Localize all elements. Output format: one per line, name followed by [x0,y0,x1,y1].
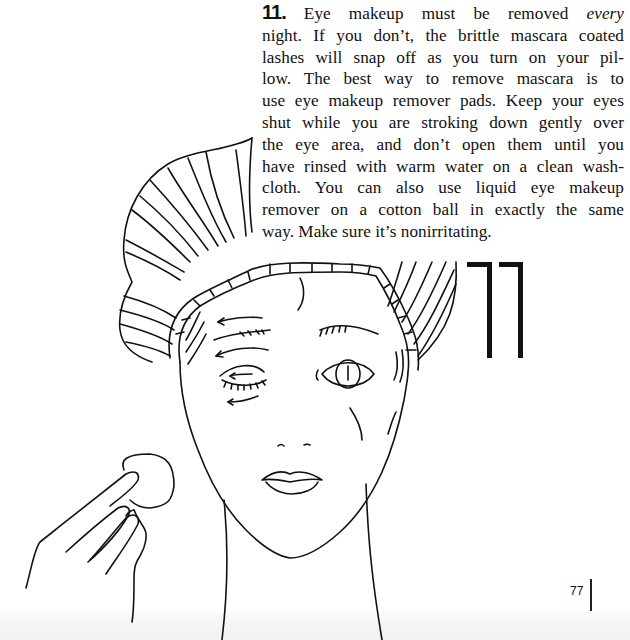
tip-line: shut while you are stroking down gently … [262,112,624,134]
closed-eye [214,317,270,405]
open-eye [317,326,379,388]
book-page: 11. Eye makeup must be removed every nig… [0,0,630,640]
hand-with-cotton-pad [26,454,174,622]
tip-line: the eye area, and don’t open them until … [262,134,624,156]
cotton-pad [123,454,174,508]
tip-line: night. If you don’t, the brittle mascara… [262,25,624,47]
seven-1-stem [487,262,492,358]
tip-line: lashes will snap off as you turn on your… [262,47,624,69]
tip-line: way. Make sure it’s nonirritating. [262,221,624,243]
tip-paragraph: 11. Eye makeup must be removed every nig… [262,2,624,243]
emphasis-word: every [587,4,624,23]
neck [222,408,382,640]
hair-curl [298,278,304,310]
tip-line: use eye makeup remover pads. Keep your e… [262,90,624,112]
tip-line: remover on a cotton ball in exactly the … [262,199,624,221]
right-eyebrow [320,326,378,334]
tip-line: cloth. You can also use liquid eye makeu… [262,177,624,199]
tip-line-1: 11. Eye makeup must be removed every [262,2,624,25]
tip-number: 11. [262,1,286,23]
cap-band [169,263,418,372]
tip-line: have rinsed with warm water on a clean w… [262,156,624,178]
seven-2-stem [518,262,523,358]
face [180,278,408,558]
tip-line: low. The best way to remove mascara is t… [262,68,624,90]
nose-and-lips [262,444,322,494]
page-number: 77 [570,584,583,598]
large-tip-number [467,262,527,358]
page-number-rule [590,579,592,611]
